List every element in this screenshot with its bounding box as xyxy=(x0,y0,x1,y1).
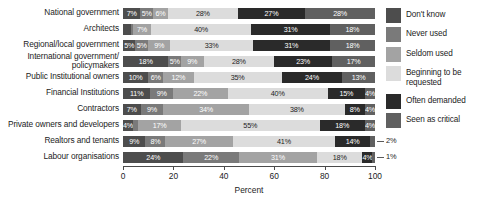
bar-segment: 17% xyxy=(332,56,375,68)
segment-value-label: 40% xyxy=(271,89,285,98)
bar-segment: 9% xyxy=(141,104,164,116)
legend-swatch xyxy=(386,113,401,128)
legend-swatch xyxy=(386,27,401,42)
segment-value-label: 5% xyxy=(137,41,147,50)
bar-segment: 24% xyxy=(282,72,342,84)
segment-value-label: 4% xyxy=(365,121,375,130)
segment-value-label: 6% xyxy=(155,9,165,18)
bar-segment: 7% xyxy=(133,24,151,36)
bar-row: 11%9%22%40%15%4% xyxy=(123,88,375,100)
callout-value-label: 1% xyxy=(386,152,397,161)
segment-value-label: 4% xyxy=(123,121,133,130)
legend-item[interactable]: Never used xyxy=(386,27,478,43)
segment-value-label: 8% xyxy=(350,105,360,114)
segment-value-label: 18% xyxy=(345,25,359,34)
plot-area: 7%5%6%28%27%28%3%1%7%40%31%18%5%5%9%33%3… xyxy=(123,6,375,166)
bar-segment: 18% xyxy=(330,24,375,36)
segment-value-label: 31% xyxy=(285,41,299,50)
legend-item[interactable]: Beginning to berequested xyxy=(386,66,478,90)
bar-segment: 38% xyxy=(249,104,345,116)
bar-segment: 18% xyxy=(330,40,375,52)
bar-segment: 8% xyxy=(145,136,165,148)
bar-row: 7%5%6%28%27%28% xyxy=(123,8,375,20)
bar-segment: 55% xyxy=(181,120,320,132)
bar-segment: 4% xyxy=(123,120,133,132)
x-axis-tick-label: 40 xyxy=(219,171,228,181)
segment-value-label: 5% xyxy=(142,9,152,18)
segment-value-label: 18% xyxy=(346,41,360,50)
legend-item[interactable]: Don't know xyxy=(386,8,478,24)
segment-value-label: 15% xyxy=(339,89,353,98)
bar-segment: 9% xyxy=(150,88,172,100)
legend-item[interactable]: Seldom used xyxy=(386,47,478,63)
legend-item[interactable]: Seen as critical xyxy=(386,113,478,129)
bar-segment: 18% xyxy=(320,120,365,132)
legend-label: Seen as critical xyxy=(406,113,460,124)
legend-swatch xyxy=(386,47,401,62)
bar-segment: 7% xyxy=(123,104,141,116)
bar-segment: 6% xyxy=(148,72,163,84)
segment-value-label: 7% xyxy=(127,9,137,18)
segment-value-label: 9% xyxy=(187,57,197,66)
legend-swatch xyxy=(386,8,401,23)
bar-segment: 7% xyxy=(123,8,140,20)
x-axis-tick-label: 100 xyxy=(368,171,382,181)
legend-label: Don't know xyxy=(406,8,445,19)
x-axis-tick-label: 0 xyxy=(121,171,126,181)
bar-segment: 35% xyxy=(194,72,282,84)
segment-value-label: 28% xyxy=(196,9,210,18)
bar-segment: 9% xyxy=(181,56,204,68)
segment-value-label: 1% xyxy=(372,153,375,162)
bar-segment: 22% xyxy=(173,88,228,100)
bar-row: 9%8%27%41%14%2% xyxy=(123,136,375,148)
category-label: National government xyxy=(0,8,119,17)
bar-segment: 13% xyxy=(342,72,375,84)
category-label: Financial Institutions xyxy=(0,88,119,97)
bar-row: 7%9%34%38%8%4% xyxy=(123,104,375,116)
segment-value-label: 17% xyxy=(347,57,361,66)
segment-value-label: 18% xyxy=(139,57,153,66)
bar-segment: 18% xyxy=(317,152,362,164)
segment-value-label: 11% xyxy=(130,89,143,98)
category-label: Realtors and tenants xyxy=(0,136,119,145)
segment-value-label: 4% xyxy=(362,153,372,162)
segment-value-label: 6% xyxy=(151,73,161,82)
bar-segment: 31% xyxy=(253,40,330,52)
bar-segment: 34% xyxy=(163,104,249,116)
x-axis-tick xyxy=(375,166,376,170)
legend-item[interactable]: Often demanded xyxy=(386,94,478,110)
segment-value-label: 4% xyxy=(365,105,375,114)
segment-value-label: 3% xyxy=(123,25,131,34)
category-label: Regional/local government xyxy=(0,40,119,49)
segment-value-label: 31% xyxy=(271,153,285,162)
segment-value-label: 5% xyxy=(124,41,134,50)
x-axis-tick-label: 60 xyxy=(270,171,279,181)
segment-value-label: 38% xyxy=(290,105,304,114)
segment-value-label: 31% xyxy=(284,25,298,34)
bar-row: 4%2%17%55%18%4% xyxy=(123,120,375,132)
segment-value-label: 24% xyxy=(305,73,319,82)
x-axis-line xyxy=(123,166,375,167)
x-axis-tick xyxy=(274,166,275,170)
bar-segment: 22% xyxy=(183,152,238,164)
segment-value-label: 18% xyxy=(335,121,349,130)
segment-value-label: 34% xyxy=(199,105,213,114)
legend-label: Often demanded xyxy=(406,94,466,105)
segment-value-label: 9% xyxy=(154,41,164,50)
bar-segment: 28% xyxy=(305,8,375,20)
bar-segment: 4% xyxy=(362,152,372,164)
legend-label: Seldom used xyxy=(406,47,453,58)
legend-label: Never used xyxy=(406,27,447,38)
segment-value-label: 41% xyxy=(277,137,291,146)
bar-segment: 28% xyxy=(204,56,275,68)
chart-legend: Don't knowNever usedSeldom usedBeginning… xyxy=(386,8,478,132)
bar-row: 24%22%31%18%4%1% xyxy=(123,152,375,164)
bar-segment: 31% xyxy=(251,24,329,36)
bar-row: 10%6%12%35%24%13% xyxy=(123,72,375,84)
bar-segment: 12% xyxy=(163,72,193,84)
segment-value-label: 18% xyxy=(333,153,347,162)
bar-segment: 18% xyxy=(123,56,168,68)
segment-value-label: 9% xyxy=(147,105,157,114)
segment-value-label: 35% xyxy=(231,73,245,82)
legend-swatch xyxy=(386,66,401,81)
